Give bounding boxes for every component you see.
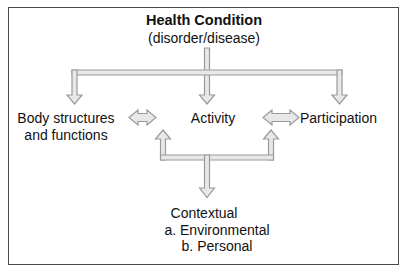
body-structures-line1: Body structures — [17, 110, 114, 126]
connector-body-structures-activity-double-arrow — [129, 110, 156, 125]
node-body-structures: Body structures and functions — [4, 110, 128, 143]
node-activity: Activity — [178, 110, 248, 127]
body-structures-line2: and functions — [4, 127, 128, 144]
connector-health-to-activity-arrow — [200, 48, 215, 104]
connector-contextual-horizontal-bar — [161, 155, 274, 160]
node-contextual: Contextual a. Environmental b. Personal — [0, 205, 408, 255]
icf-model-diagram: Health Condition (disorder/disease) Body… — [0, 0, 408, 274]
health-condition-subtitle: (disorder/disease) — [0, 30, 408, 47]
contextual-heading: Contextual — [0, 205, 408, 222]
contextual-item-environmental: a. Environmental — [0, 222, 408, 239]
connector-branch-horizontal-bar — [72, 70, 342, 75]
connector-to-contextual-arrow — [200, 155, 215, 198]
contextual-item-personal: b. Personal — [0, 238, 408, 255]
node-participation: Participation — [300, 110, 400, 127]
connector-activity-participation-double-arrow — [263, 110, 299, 125]
health-condition-title: Health Condition — [0, 12, 408, 29]
